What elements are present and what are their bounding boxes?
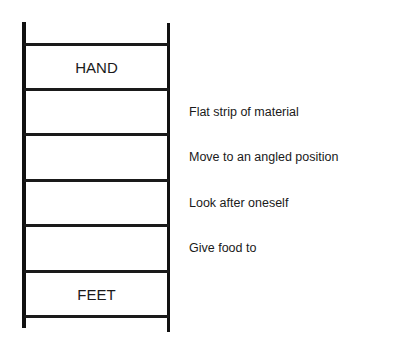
word-ladder-diagram: HAND FEET Flat strip of material Move to… [0,0,402,345]
ladder-rung [24,88,169,91]
clue-1: Flat strip of material [189,104,299,120]
ladder-rung [24,133,169,136]
ladder-right-rail [167,23,170,332]
ladder-bottom-word: FEET [26,286,167,304]
ladder-top-word: HAND [26,59,167,77]
ladder-rung [24,43,169,46]
ladder-rung [24,224,169,227]
clue-3: Look after oneself [189,195,288,211]
clue-2: Move to an angled position [189,149,338,165]
ladder-rung [24,179,169,182]
clue-4: Give food to [189,240,256,256]
ladder-rung [24,315,169,318]
ladder-rung [24,270,169,273]
